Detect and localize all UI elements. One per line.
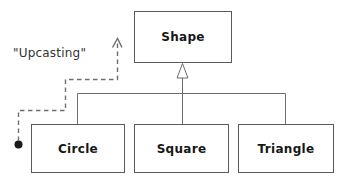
upcasting-annotation-label: "Upcasting" (13, 46, 86, 60)
class-box-circle[interactable]: Circle (31, 124, 125, 173)
class-label-circle: Circle (58, 143, 98, 155)
class-label-triangle: Triangle (258, 143, 315, 155)
generalization-arrowhead-icon (177, 64, 188, 79)
class-label-square: Square (157, 143, 207, 155)
class-box-square[interactable]: Square (134, 124, 229, 173)
class-box-shape[interactable]: Shape (134, 11, 232, 63)
upcasting-source-dot-icon (15, 141, 23, 149)
class-box-triangle[interactable]: Triangle (238, 124, 334, 173)
inheritance-connectors (78, 64, 286, 125)
uml-diagram-canvas: Shape Circle Square Triangle "Upcasting" (0, 0, 344, 183)
class-label-shape: Shape (161, 31, 205, 43)
